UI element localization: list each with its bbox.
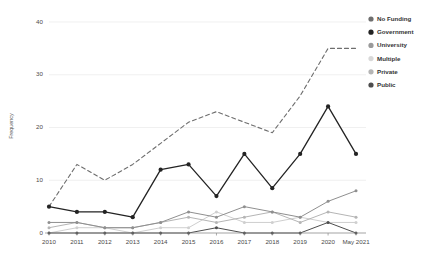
x-tick-label: 2013	[126, 238, 140, 245]
data-point	[187, 210, 190, 213]
y-tick-label: 10	[36, 176, 43, 183]
legend-label-public[interactable]: Public	[377, 81, 396, 88]
data-point	[186, 162, 190, 166]
data-point	[243, 221, 246, 224]
chart-container: 010203040 201020112012201320142015201620…	[0, 0, 439, 256]
data-point	[103, 226, 106, 229]
legend-marker-university[interactable]	[368, 43, 373, 48]
legend-label-multiple[interactable]: Multiple	[377, 55, 401, 62]
data-point	[187, 216, 190, 219]
data-point	[159, 226, 162, 229]
data-point	[215, 210, 218, 213]
data-point	[271, 221, 274, 224]
data-point	[214, 194, 218, 198]
data-point	[103, 210, 107, 214]
data-point	[48, 226, 51, 229]
legend-label-private[interactable]: Private	[377, 68, 398, 75]
data-point	[131, 215, 135, 219]
data-point	[243, 216, 246, 219]
data-point	[215, 226, 218, 229]
data-point	[298, 152, 302, 156]
y-axis-title: Frequency	[8, 113, 14, 139]
legend-marker-private[interactable]	[368, 69, 373, 74]
x-tick-label: 2016	[210, 238, 224, 245]
data-point	[215, 216, 218, 219]
data-point	[187, 226, 190, 229]
data-point	[299, 221, 302, 224]
x-tick-label: 2017	[237, 238, 251, 245]
y-tick-label: 30	[36, 70, 43, 77]
chart-background	[0, 0, 439, 256]
data-point	[299, 216, 302, 219]
y-tick-label: 40	[36, 18, 43, 25]
data-point	[327, 210, 330, 213]
legend-marker-public[interactable]	[368, 82, 373, 87]
data-point	[354, 152, 358, 156]
data-point	[75, 210, 79, 214]
data-point	[327, 221, 330, 224]
data-point	[271, 210, 274, 213]
x-tick-label: 2020	[321, 238, 335, 245]
legend-label-university[interactable]: University	[377, 41, 407, 48]
data-point	[355, 189, 358, 192]
x-tick-label: 2011	[70, 238, 84, 245]
data-point	[48, 221, 51, 224]
data-point	[75, 221, 78, 224]
y-tick-label: 20	[36, 123, 43, 130]
data-point	[270, 186, 274, 190]
funding-frequency-line-chart: 010203040 201020112012201320142015201620…	[0, 0, 439, 256]
data-point	[326, 104, 330, 108]
x-tick-label: 2018	[265, 238, 279, 245]
data-point	[355, 216, 358, 219]
x-tick-label: 2019	[293, 238, 307, 245]
data-point	[159, 221, 162, 224]
x-tick-label: May 2021	[342, 238, 370, 245]
data-point	[242, 152, 246, 156]
legend-marker-government[interactable]	[368, 30, 373, 35]
data-point	[243, 205, 246, 208]
y-tick-label: 0	[40, 229, 44, 236]
data-point	[75, 226, 78, 229]
data-point	[327, 200, 330, 203]
data-point	[159, 168, 163, 172]
legend-marker-multiple[interactable]	[368, 56, 373, 61]
x-tick-label: 2015	[182, 238, 196, 245]
legend-label-no-funding[interactable]: No Funding	[377, 15, 412, 22]
data-point	[47, 205, 51, 209]
data-point	[131, 226, 134, 229]
data-point	[215, 221, 218, 224]
legend-marker-no-funding[interactable]	[368, 16, 373, 21]
x-tick-label: 2014	[154, 238, 168, 245]
data-point	[355, 221, 358, 224]
legend-label-government[interactable]: Government	[377, 28, 413, 35]
x-tick-label: 2012	[98, 238, 112, 245]
x-tick-label: 2010	[42, 238, 56, 245]
